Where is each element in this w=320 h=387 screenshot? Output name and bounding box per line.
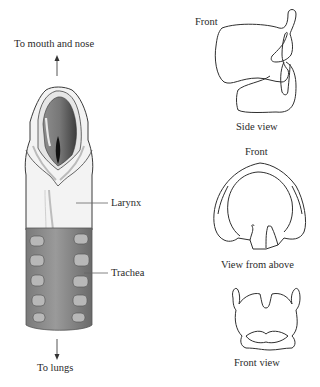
larynx-illustration: [25, 87, 93, 230]
above-view-caption: View from above: [221, 259, 294, 270]
side-view-caption: Side view: [236, 121, 278, 132]
front-view-caption: Front view: [234, 357, 280, 368]
above-view-outline: [214, 163, 306, 249]
arrow-up-icon: [55, 55, 60, 76]
larynx-label: Larynx: [111, 197, 141, 208]
to-lungs-label: To lungs: [37, 362, 73, 373]
above-view-front-label: Front: [245, 146, 268, 157]
diagram-canvas: [0, 0, 320, 387]
to-mouth-and-nose-label: To mouth and nose: [14, 38, 94, 49]
arrow-down-icon: [55, 339, 60, 360]
side-view-outline: [215, 10, 296, 113]
trachea-label: Trachea: [111, 267, 144, 278]
side-view-front-label: Front: [195, 16, 218, 27]
trachea-illustration: [26, 228, 92, 330]
front-view-outline: [233, 288, 300, 350]
